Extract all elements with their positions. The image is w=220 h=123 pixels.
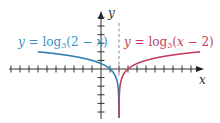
label-arg-close: ) [103,35,108,49]
label-y: y [124,35,131,49]
label-arg-close: − 2) [184,35,214,49]
red-equation-label: y = log3(x − 2) [124,36,214,48]
curve-log3-x-minus-2 [119,52,200,118]
curve-log3-2-minus-x [38,52,119,118]
x-axis-label: x [199,74,206,86]
x-axis-arrow-icon [196,66,204,72]
label-y: y [18,35,25,49]
log-graph-figure: y = log3(2 − x) y = log3(x − 2) y x [0,0,220,123]
label-var: x [177,35,184,49]
blue-equation-label: y = log3(2 − x) [18,36,108,48]
label-log: = log [25,35,61,49]
y-axis-label: y [108,7,115,19]
label-arg-open: (2 − [66,35,96,49]
label-log: = log [131,35,167,49]
